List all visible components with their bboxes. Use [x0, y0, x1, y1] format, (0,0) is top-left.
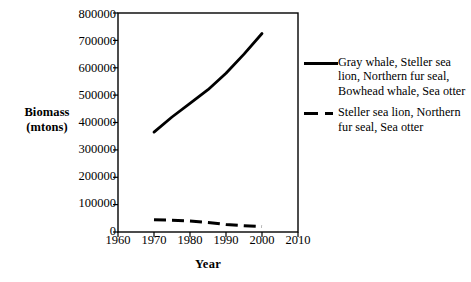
series-line-dashed — [154, 220, 262, 227]
legend-label-solid: Gray whale, Steller sea lion, Northern f… — [338, 55, 466, 98]
legend-entry-solid: Gray whale, Steller sea lion, Northern f… — [304, 55, 469, 98]
x-tick-2010: 2010 — [275, 234, 321, 247]
legend-solid-line-icon — [304, 56, 338, 71]
legend-dashed-line-icon — [304, 106, 338, 121]
x-axis-label: Year — [118, 257, 298, 272]
chart-figure: Biomass (mtons) 800000 700000 600000 500… — [0, 0, 471, 282]
legend-label-dashed: Steller sea lion, Northern fur seal, Sea… — [338, 105, 466, 134]
x-axis-tick-labels: 1960 1970 1980 1990 2000 2010 — [0, 234, 471, 252]
legend-entry-dashed: Steller sea lion, Northern fur seal, Sea… — [304, 105, 469, 134]
y-axis-ticks — [113, 13, 118, 232]
plot-frame — [118, 13, 298, 232]
chart-legend: Gray whale, Steller sea lion, Northern f… — [304, 55, 469, 141]
series-line-solid — [154, 34, 262, 133]
